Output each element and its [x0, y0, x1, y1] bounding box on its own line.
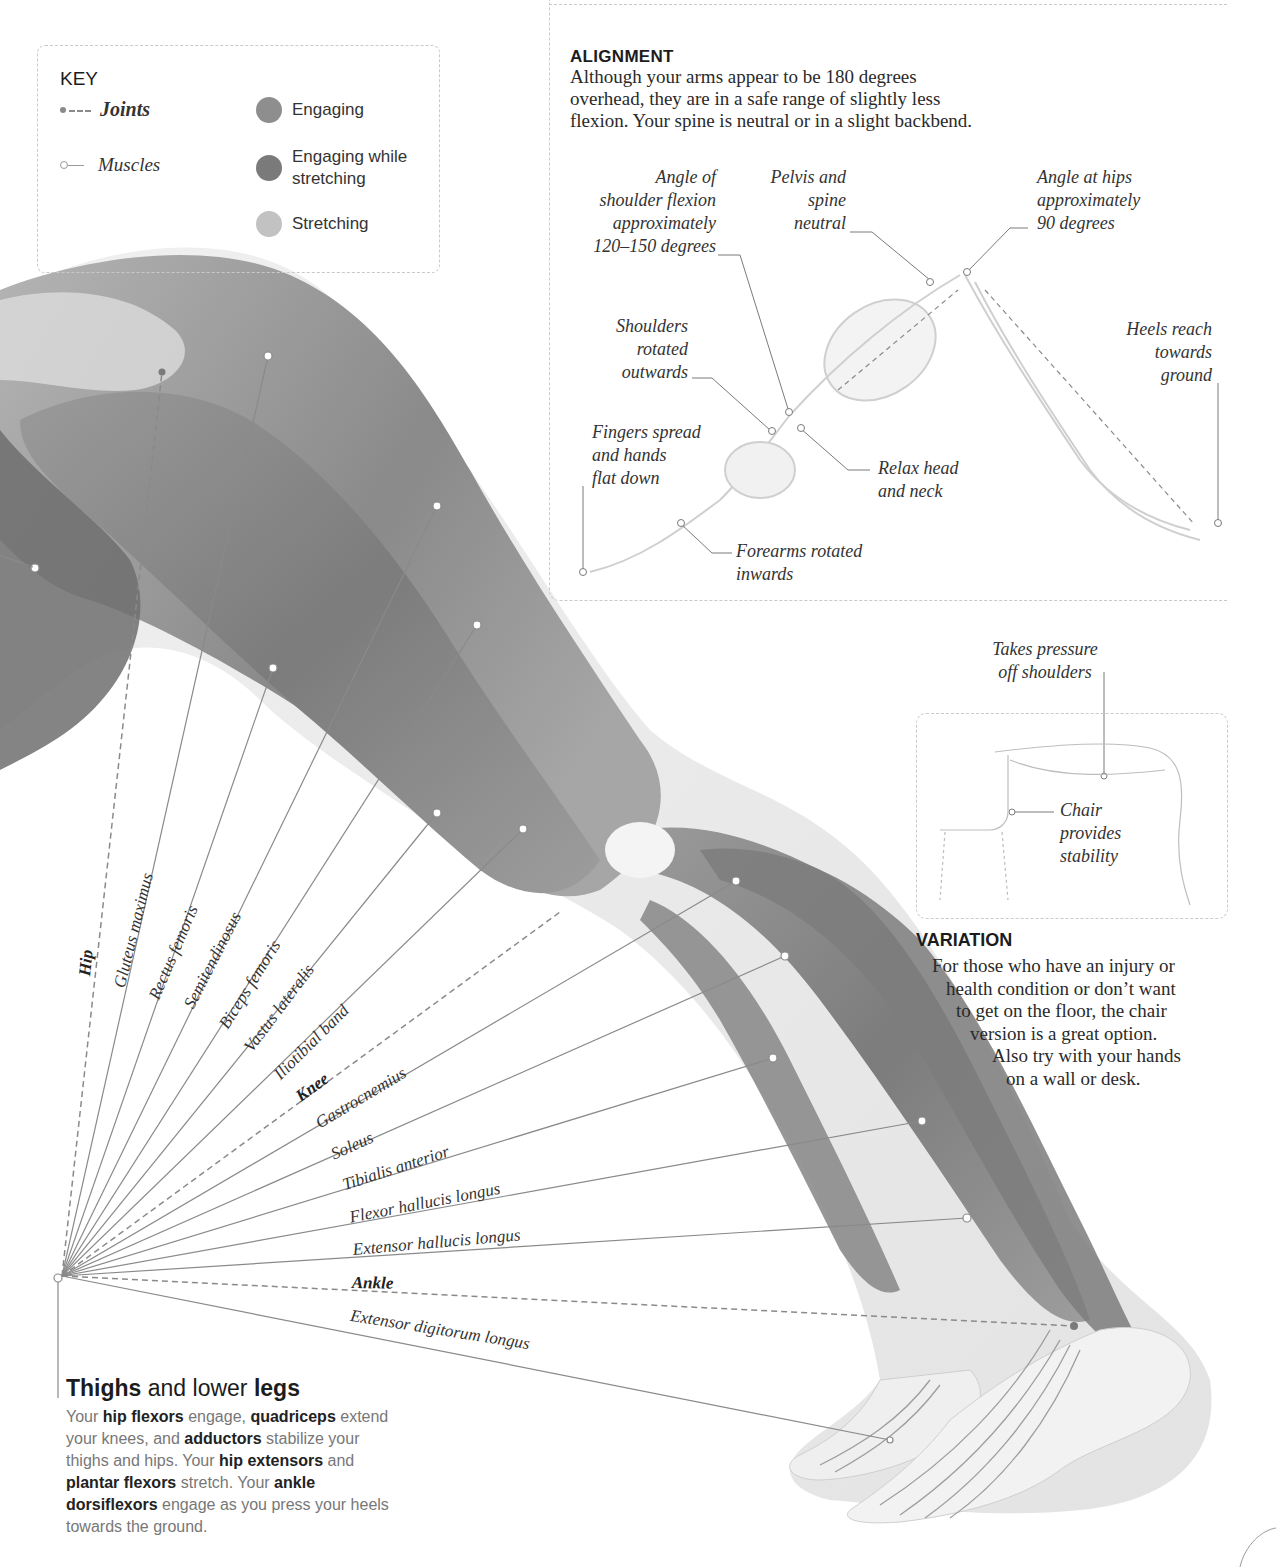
key-stretching-label: Stretching: [292, 213, 369, 235]
callout-fingers: Fingers spread and hands flat down: [592, 421, 732, 490]
variation-title: VARIATION: [916, 930, 1012, 951]
callout-line: Pelvis and: [740, 166, 846, 189]
callout-line: spine: [740, 189, 846, 212]
body-text: engage,: [184, 1408, 251, 1425]
alignment-body-line: overhead, they are in a safe range of sl…: [570, 88, 1090, 110]
callout-chair-stability: Chair provides stability: [1060, 799, 1160, 868]
alignment-title: ALIGNMENT: [570, 47, 674, 67]
key-engaging-stretching-row: Engaging while stretching: [256, 146, 407, 190]
body-bold: quadriceps: [250, 1408, 335, 1425]
alignment-body-line: flexion. Your spine is neutral or in a s…: [570, 110, 1090, 132]
muscle-ring-line-icon: [60, 160, 90, 170]
callout-line: Forearms rotated: [736, 540, 896, 563]
callout-line: 120–150 degrees: [560, 235, 716, 258]
variation-body-line: health condition or don’t want: [916, 978, 1236, 1001]
key-engaging-row: Engaging: [256, 97, 364, 123]
key-joints-row: Joints: [60, 98, 150, 121]
callout-line: approximately: [1037, 189, 1177, 212]
callout-line: and neck: [878, 480, 998, 503]
key-joints-label: Joints: [100, 98, 150, 121]
variation-body-line: Also try with your hands: [916, 1045, 1236, 1068]
callout-line: Heels reach: [1100, 318, 1212, 341]
alignment-body: Although your arms appear to be 180 degr…: [570, 66, 1090, 132]
title-regular-part: and lower: [141, 1375, 254, 1401]
section-body-thighs: Your hip flexors engage, quadriceps exte…: [66, 1406, 406, 1538]
callout-line: ground: [1100, 364, 1212, 387]
body-bold: hip flexors: [103, 1408, 184, 1425]
variation-body-line: version is a great option.: [916, 1023, 1236, 1046]
callout-line: rotated: [580, 338, 688, 361]
key-muscles-row: Muscles: [60, 154, 160, 176]
title-bold-part: legs: [254, 1375, 300, 1401]
callout-line: towards: [1100, 341, 1212, 364]
callout-line: neutral: [740, 212, 846, 235]
body-text: Your: [66, 1408, 103, 1425]
callout-line: off shoulders: [985, 661, 1105, 684]
callout-head-neck: Relax head and neck: [878, 457, 998, 503]
callout-line: approximately: [560, 212, 716, 235]
joint-label-ankle: Ankle: [352, 1273, 394, 1294]
body-bold: plantar flexors: [66, 1474, 176, 1491]
variation-body: For those who have an injury or health c…: [916, 955, 1236, 1090]
callout-line: Fingers spread: [592, 421, 732, 444]
variation-body-line: For those who have an injury or: [916, 955, 1236, 978]
title-bold-part: Thighs: [66, 1375, 141, 1401]
callout-line: 90 degrees: [1037, 212, 1177, 235]
callout-line: Shoulders: [580, 315, 688, 338]
body-text: and: [323, 1452, 354, 1469]
callout-takes-pressure: Takes pressure off shoulders: [985, 638, 1105, 684]
callout-forearms: Forearms rotated inwards: [736, 540, 896, 586]
callout-hips-angle: Angle at hips approximately 90 degrees: [1037, 166, 1177, 235]
joint-dash-dot-icon: [60, 105, 94, 115]
callout-line: Takes pressure: [985, 638, 1105, 661]
callout-pelvis-spine: Pelvis and spine neutral: [740, 166, 846, 235]
callout-line: outwards: [580, 361, 688, 384]
key-engaging-label: Engaging: [292, 99, 364, 121]
callout-heels: Heels reach towards ground: [1100, 318, 1212, 387]
callout-line: Angle at hips: [1037, 166, 1177, 189]
callout-shoulders-rotated: Shoulders rotated outwards: [580, 315, 688, 384]
callout-line: Chair: [1060, 799, 1160, 822]
callout-line: Relax head: [878, 457, 998, 480]
stretching-swatch-icon: [256, 211, 282, 237]
variation-body-line: on a wall or desk.: [916, 1068, 1236, 1091]
section-title-thighs: Thighs and lower legs: [66, 1375, 300, 1402]
key-title: KEY: [60, 68, 98, 90]
callout-line: provides: [1060, 822, 1160, 845]
key-muscles-label: Muscles: [98, 154, 160, 176]
engaging-swatch-icon: [256, 97, 282, 123]
joint-label-hip: Hip: [75, 949, 98, 977]
key-engaging-stretching-label-1: Engaging while: [292, 147, 407, 166]
variation-body-line: to get on the floor, the chair: [916, 1000, 1236, 1023]
callout-line: shoulder flexion: [560, 189, 716, 212]
key-engaging-stretching-label-2: stretching: [292, 169, 366, 188]
callout-line: Angle of: [560, 166, 716, 189]
body-bold: hip extensors: [219, 1452, 323, 1469]
alignment-body-line: Although your arms appear to be 180 degr…: [570, 66, 1090, 88]
callout-line: inwards: [736, 563, 896, 586]
callout-line: and hands: [592, 444, 732, 467]
key-stretching-row: Stretching: [256, 211, 369, 237]
body-bold: adductors: [184, 1430, 261, 1447]
callout-line: stability: [1060, 845, 1160, 868]
callout-shoulder-flexion: Angle of shoulder flexion approximately …: [560, 166, 716, 258]
legend-key-box: KEY Joints Muscles Engaging Engaging whi…: [37, 45, 440, 273]
engaging-stretching-swatch-icon: [256, 155, 282, 181]
body-text: stretch. Your: [176, 1474, 274, 1491]
callout-line: flat down: [592, 467, 732, 490]
